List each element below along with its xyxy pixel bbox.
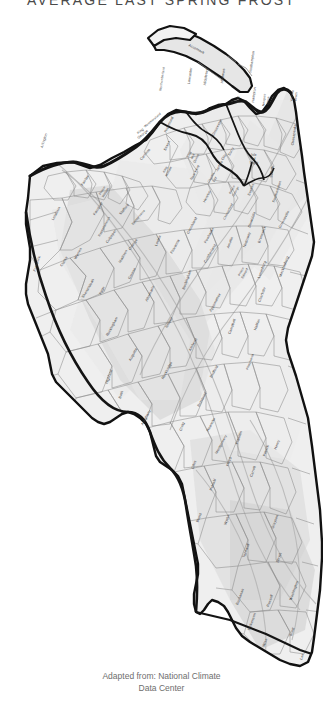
caption-line-2: Data Center <box>0 682 323 694</box>
county-label: Northampton <box>248 51 255 73</box>
county-label: Middlesex <box>203 68 209 86</box>
county-label: Arlington <box>40 133 49 149</box>
county-label: Northumberland <box>158 67 165 91</box>
caption-line-1: Adapted from: National Climate <box>0 670 323 682</box>
virginia-county-map: AccomackNorthamptonVirginiaBeachChesapea… <box>0 0 323 727</box>
county-label: Lancaster <box>187 67 193 85</box>
source-caption: Adapted from: National Climate Data Cent… <box>0 670 323 694</box>
eastern-shore <box>148 26 252 92</box>
county-label: NewportNews <box>261 93 271 106</box>
map-figure: Average Last Spring Frost <box>0 0 323 727</box>
county-label: VirginiaBeach <box>289 90 299 102</box>
county-label: Hampton <box>251 87 257 103</box>
